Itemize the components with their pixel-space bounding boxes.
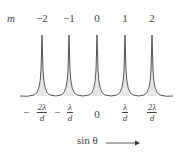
numerator: λ	[122, 102, 128, 113]
numerator: 2λ	[37, 102, 47, 113]
denominator: d	[67, 113, 73, 123]
denominator: d	[122, 113, 128, 123]
position-label: 2λ d	[147, 102, 157, 123]
position-minus-sign: −	[23, 106, 29, 118]
position-minus-sign: −	[54, 106, 60, 118]
position-zero: 0	[94, 108, 100, 120]
numerator: 2λ	[147, 102, 157, 113]
position-label: λ d	[122, 102, 128, 123]
position-label: 2λ d	[37, 102, 47, 123]
numerator: λ	[67, 102, 73, 113]
axis-label-sin-theta: sin θ	[77, 134, 98, 146]
denominator: d	[37, 113, 47, 123]
position-label: λ d	[67, 102, 73, 123]
intensity-pattern	[0, 0, 182, 153]
denominator: d	[147, 113, 157, 123]
